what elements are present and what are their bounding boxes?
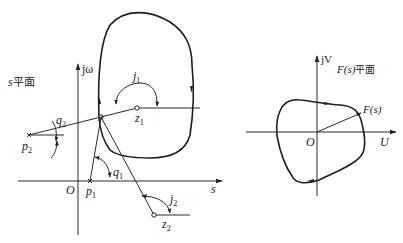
label-phi1: j1	[131, 69, 140, 85]
contour-arrow-down-icon	[190, 86, 193, 93]
diagram-canvas: s平面 jω s O p2 p1 z1 z2 q2 q1 j1 j2 F(s)平…	[0, 0, 403, 243]
label-z2: z2	[161, 217, 171, 233]
label-theta2: q2	[56, 113, 66, 129]
origin-label-F: O	[306, 135, 315, 149]
zero-z1-icon	[135, 106, 139, 110]
F-plane-contour	[277, 100, 365, 183]
angle-arc-theta1	[95, 157, 110, 177]
angle-arc-phi2	[142, 196, 170, 213]
imag-axis-label-jV: jV	[320, 53, 332, 65]
label-p2: p2	[21, 139, 32, 155]
origin-label-s: O	[66, 183, 75, 197]
label-p1: p1	[85, 184, 96, 200]
vector-p1-s	[90, 117, 101, 181]
label-z1: z1	[134, 111, 144, 127]
s-plane-label: s平面	[8, 75, 35, 89]
s-plane-contour	[99, 13, 194, 158]
F-plane-label: F(s)平面	[336, 63, 375, 76]
label-phi2: j2	[168, 192, 177, 208]
vector-label-F: F(s)	[362, 103, 382, 116]
vector-z1-s	[101, 108, 137, 117]
vector-z2-s	[101, 117, 154, 215]
angle-arc-phi1	[116, 83, 157, 106]
angle-arc-theta2-lower	[51, 141, 57, 158]
real-axis-label-U: U	[380, 135, 390, 149]
imag-axis-label: jω	[81, 62, 93, 76]
zero-z2-icon	[152, 213, 156, 217]
vector-F-s	[317, 113, 361, 132]
F-plane: F(s)平面 jV U O F(s)	[246, 53, 396, 196]
real-axis-label: s	[211, 182, 216, 196]
label-theta1: q1	[113, 165, 123, 181]
s-plane: s平面 jω s O p2 p1 z1 z2 q2 q1 j1 j2	[8, 13, 222, 235]
